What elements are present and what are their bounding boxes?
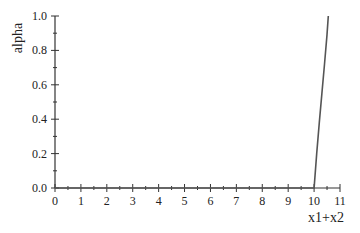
x-tick-label: 0: [52, 194, 58, 208]
x-tick-label: 11: [334, 194, 346, 208]
chart: 012345678910110.00.20.40.60.81.0x1+x2alp…: [0, 0, 360, 233]
x-tick-label: 1: [78, 194, 84, 208]
y-tick-label: 0.4: [32, 112, 47, 126]
x-tick-label: 10: [308, 194, 320, 208]
y-axis-label: alpha: [10, 22, 25, 53]
y-tick-label: 1.0: [32, 9, 47, 23]
x-tick-label: 3: [130, 194, 136, 208]
x-tick-label: 9: [285, 194, 291, 208]
x-tick-label: 6: [207, 194, 213, 208]
x-tick-label: 7: [233, 194, 239, 208]
y-tick-label: 0.8: [32, 43, 47, 57]
series-line: [55, 16, 328, 188]
x-tick-label: 2: [104, 194, 110, 208]
x-axis-label: x1+x2: [308, 210, 344, 225]
x-tick-label: 4: [156, 194, 162, 208]
y-tick-label: 0.0: [32, 181, 47, 195]
y-tick-label: 0.6: [32, 78, 47, 92]
x-tick-label: 5: [182, 194, 188, 208]
x-tick-label: 8: [259, 194, 265, 208]
y-tick-label: 0.2: [32, 147, 47, 161]
